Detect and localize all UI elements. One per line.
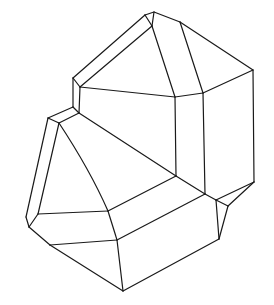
- edge-line: [108, 176, 176, 211]
- edge-line: [48, 118, 59, 123]
- edge-line: [176, 176, 205, 194]
- edge-line: [73, 78, 80, 87]
- edge-line: [48, 107, 73, 118]
- edge-line: [59, 113, 79, 123]
- edge-line: [216, 200, 228, 206]
- edge-line: [180, 22, 203, 93]
- edge-line: [117, 240, 123, 291]
- edge-line: [216, 182, 254, 200]
- edge-line: [79, 87, 80, 113]
- edge-line: [108, 211, 117, 240]
- edge-line: [80, 26, 152, 87]
- edge-line: [29, 214, 38, 227]
- edge-line: [145, 12, 154, 15]
- edge-line: [145, 15, 152, 26]
- edge-line: [175, 97, 176, 176]
- edge-line: [38, 123, 59, 214]
- edge-line: [50, 240, 117, 245]
- edge-line: [219, 206, 228, 239]
- edge-line: [50, 245, 123, 291]
- crystal-polyhedron-drawing: [0, 0, 274, 305]
- edge-line: [203, 93, 205, 194]
- polyhedron-edges: [26, 12, 254, 291]
- edge-line: [73, 15, 145, 78]
- edge-line: [26, 118, 48, 217]
- edge-line: [253, 70, 254, 182]
- edge-line: [154, 12, 180, 22]
- edge-line: [216, 200, 219, 239]
- edge-line: [38, 211, 108, 214]
- edge-line: [73, 107, 79, 113]
- edge-line: [152, 12, 154, 26]
- edge-line: [152, 26, 175, 97]
- edge-line: [117, 194, 205, 240]
- edge-line: [203, 70, 253, 93]
- edge-line: [26, 217, 29, 227]
- edge-line: [175, 93, 203, 97]
- edge-line: [29, 227, 50, 245]
- polyhedron-curved-edges: [59, 123, 108, 211]
- edge-line: [123, 239, 219, 291]
- edge-curve: [59, 123, 108, 211]
- edge-line: [180, 22, 253, 70]
- edge-line: [80, 87, 175, 97]
- edge-line: [228, 182, 254, 206]
- edge-line: [79, 113, 176, 176]
- edge-line: [205, 194, 216, 200]
